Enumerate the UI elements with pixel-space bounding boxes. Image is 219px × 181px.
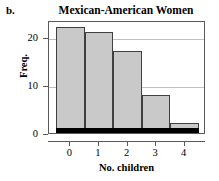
x-tick-3 — [155, 141, 156, 146]
x-tick-2 — [127, 141, 128, 146]
y-tick-20 — [43, 38, 48, 39]
x-axis-title: No. children — [48, 162, 205, 174]
x-tick-1 — [98, 141, 99, 146]
bar-series — [49, 22, 204, 133]
y-tick-label-10: 10 — [4, 80, 38, 91]
y-tick-0 — [43, 134, 48, 135]
bar-0 — [56, 27, 85, 133]
x-tick-label-4: 4 — [174, 147, 194, 159]
y-tick-label-20: 20 — [4, 32, 38, 43]
figure: b. Mexican-American Women Freq. 01020 01… — [0, 0, 219, 181]
x-tick-label-2: 2 — [117, 147, 137, 159]
y-axis-spine — [48, 21, 49, 134]
x-tick-label-1: 1 — [88, 147, 108, 159]
y-tick-10 — [43, 86, 48, 87]
y-tick-label-0: 0 — [4, 128, 38, 139]
x-tick-label-0: 0 — [59, 147, 79, 159]
x-tick-0 — [69, 141, 70, 146]
x-tick-label-3: 3 — [145, 147, 165, 159]
baseline-bar — [56, 128, 199, 133]
panel-letter: b. — [6, 4, 15, 17]
chart-title: Mexican-American Women — [45, 3, 207, 17]
x-tick-4 — [184, 141, 185, 146]
bar-2 — [113, 51, 142, 133]
bar-1 — [85, 32, 114, 133]
plot-area — [48, 21, 205, 134]
